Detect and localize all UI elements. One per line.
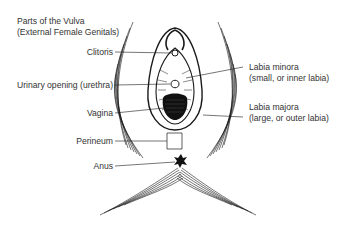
title-line-2: (External Female Genitals) bbox=[17, 27, 119, 38]
labia-minora-name: Labia minora bbox=[249, 62, 329, 73]
labia-minora-desc: (small, or inner labia) bbox=[249, 73, 329, 84]
label-labia-minora: Labia minora (small, or inner labia) bbox=[249, 62, 329, 84]
label-urethra: Urinary opening (urethra) bbox=[17, 80, 113, 91]
label-labia-majora: Labia majora (large, or outer labia) bbox=[249, 102, 329, 124]
label-vagina: Vagina bbox=[87, 108, 113, 119]
label-clitoris: Clitoris bbox=[87, 47, 113, 58]
label-perineum: Perineum bbox=[76, 136, 113, 147]
title-line-1: Parts of the Vulva bbox=[17, 16, 119, 27]
diagram-title: Parts of the Vulva (External Female Geni… bbox=[17, 16, 119, 38]
labia-majora-name: Labia majora bbox=[249, 102, 329, 113]
labia-majora-desc: (large, or outer labia) bbox=[249, 113, 329, 124]
label-anus: Anus bbox=[93, 161, 113, 172]
